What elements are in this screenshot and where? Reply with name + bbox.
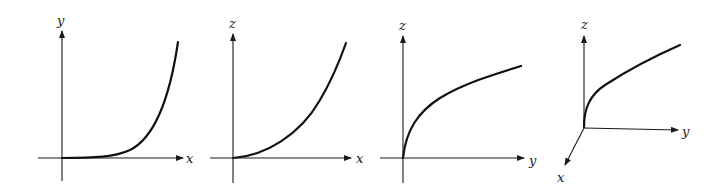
panel-1-horizontal-axis-label: x bbox=[186, 151, 194, 166]
panel-2-curve bbox=[233, 43, 346, 158]
panel-4-x-axis-label: x bbox=[557, 170, 565, 185]
panel-4-y-axis-label: y bbox=[681, 124, 690, 139]
panel-2-vertical-axis-label: z bbox=[228, 16, 236, 31]
panel-1-vertical-axis-label: y bbox=[56, 13, 65, 28]
panel-4-y-axis bbox=[584, 128, 678, 130]
panel-3-curve bbox=[403, 66, 521, 158]
panel-1: y x bbox=[38, 13, 194, 181]
panel-4-curve bbox=[584, 45, 680, 127]
panel-4-x-axis bbox=[565, 128, 584, 165]
panel-2-horizontal-axis-label: x bbox=[356, 151, 364, 166]
panel-1-curve bbox=[62, 42, 178, 158]
panel-3-horizontal-axis-label: y bbox=[528, 153, 537, 168]
panel-4-z-axis-label: z bbox=[580, 17, 588, 32]
panel-4: z y x bbox=[557, 17, 690, 185]
panel-2: z x bbox=[210, 16, 364, 183]
panel-3: z y bbox=[380, 18, 537, 183]
panel-3-vertical-axis-label: z bbox=[398, 18, 406, 33]
figure-canvas: y x z x z y z y x bbox=[0, 0, 714, 191]
